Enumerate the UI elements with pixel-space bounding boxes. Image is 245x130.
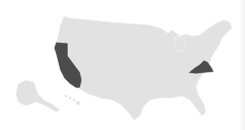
state-hawaii[interactable]: [65, 95, 80, 105]
us-map: [0, 0, 245, 130]
scroll-edge: [239, 0, 245, 130]
state-alaska[interactable]: [16, 80, 60, 112]
